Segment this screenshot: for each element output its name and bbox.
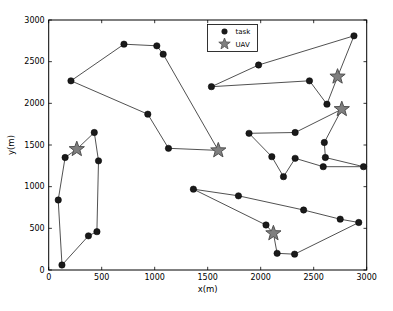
task-marker xyxy=(235,193,241,199)
task-marker xyxy=(68,78,74,84)
task-marker xyxy=(280,173,286,179)
task-marker xyxy=(121,41,127,47)
task-marker xyxy=(246,130,252,136)
x-tick-label: 0 xyxy=(46,273,51,282)
task-marker xyxy=(306,78,312,84)
y-tick-label: 1500 xyxy=(24,141,44,150)
task-marker xyxy=(291,251,297,257)
task-marker xyxy=(95,158,101,164)
task-marker xyxy=(165,145,171,151)
task-marker xyxy=(292,129,298,135)
x-tick-label: 3000 xyxy=(357,273,377,282)
legend-uav-label: UAV xyxy=(236,41,250,49)
task-marker xyxy=(55,197,61,203)
x-tick-label: 500 xyxy=(94,273,109,282)
uav-task-routes-figure: 0500100015002000250030000500100015002000… xyxy=(0,0,393,311)
task-marker xyxy=(154,43,160,49)
task-marker xyxy=(94,228,100,234)
x-axis-label: x(m) xyxy=(198,284,218,294)
task-marker xyxy=(255,62,261,68)
y-axis-label: y(m) xyxy=(6,135,16,155)
task-marker xyxy=(337,216,343,222)
task-marker xyxy=(324,101,330,107)
y-tick-label: 1000 xyxy=(24,182,44,191)
task-marker xyxy=(300,207,306,213)
y-tick-label: 3000 xyxy=(24,16,44,25)
task-marker xyxy=(85,233,91,239)
task-marker xyxy=(160,51,166,57)
task-marker xyxy=(269,153,275,159)
task-marker xyxy=(263,222,269,228)
x-tick-label: 1000 xyxy=(145,273,165,282)
task-marker xyxy=(321,139,327,145)
y-tick-label: 500 xyxy=(29,224,44,233)
task-marker xyxy=(356,219,362,225)
task-marker xyxy=(208,83,214,89)
task-marker xyxy=(322,154,328,160)
task-marker xyxy=(351,33,357,39)
legend: taskUAV xyxy=(208,25,258,52)
task-marker xyxy=(91,129,97,135)
task-marker xyxy=(59,262,65,268)
uav-task-routes-chart: 0500100015002000250030000500100015002000… xyxy=(0,0,393,311)
x-tick-label: 2000 xyxy=(251,273,271,282)
task-marker xyxy=(190,186,196,192)
task-marker xyxy=(320,163,326,169)
y-tick-label: 2000 xyxy=(24,99,44,108)
task-marker xyxy=(360,163,366,169)
x-tick-label: 1500 xyxy=(198,273,218,282)
task-marker xyxy=(274,250,280,256)
y-tick-label: 2500 xyxy=(24,57,44,66)
legend-task-circle-icon xyxy=(222,29,228,35)
legend-task-label: task xyxy=(236,28,252,36)
task-marker xyxy=(62,154,68,160)
task-marker xyxy=(145,111,151,117)
task-marker xyxy=(292,155,298,161)
y-tick-label: 0 xyxy=(40,266,45,275)
x-tick-label: 2500 xyxy=(304,273,324,282)
